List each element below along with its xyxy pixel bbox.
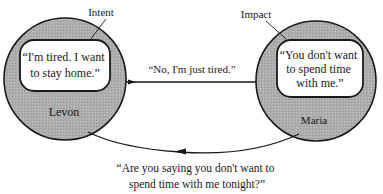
arrowhead-left-icon: [174, 149, 186, 155]
maria-bubble-line-1: “You don't want: [280, 48, 358, 62]
arrowhead-right-icon: [128, 80, 136, 85]
top-edge-label: “No, I'm just tired.”: [148, 63, 235, 75]
maria-bubble-line-3: with me.”: [296, 76, 343, 90]
bottom-edge-label-line-1: “Are you saying you don't want to: [117, 162, 275, 175]
levon-name: Levon: [49, 105, 80, 119]
node-maria: “You don't want to spend time with me.” …: [256, 21, 376, 141]
edge-levon-to-maria: “No, I'm just tired.”: [126, 63, 256, 85]
impact-label: Impact: [241, 8, 272, 20]
levon-bubble-line-2: to stay home.”: [30, 66, 100, 80]
intent-impact-diagram: “I'm tired. I want to stay home.” Levon …: [0, 0, 383, 194]
maria-bubble-line-2: to spend time: [286, 62, 351, 76]
svg-text:“Are you saying you don't want: “Are you saying you don't want to spend …: [117, 162, 278, 191]
levon-bubble-line-1: “I'm tired. I want: [22, 50, 105, 64]
intent-label: Intent: [88, 6, 114, 18]
maria-name: Maria: [301, 114, 327, 126]
bottom-arrow-curve: [88, 132, 299, 153]
node-levon: “I'm tired. I want to stay home.” Levon: [4, 18, 126, 140]
edge-maria-to-levon: “Are you saying you don't want to spend …: [88, 132, 299, 191]
bottom-edge-label-line-2: spend time with me tonight?”: [129, 178, 265, 191]
